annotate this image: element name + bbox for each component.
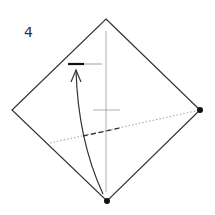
corner-dot-right — [197, 107, 203, 113]
valley-fold-dotted — [50, 110, 200, 143]
fold-diagram — [0, 0, 215, 215]
corner-dot-bottom — [104, 198, 110, 204]
